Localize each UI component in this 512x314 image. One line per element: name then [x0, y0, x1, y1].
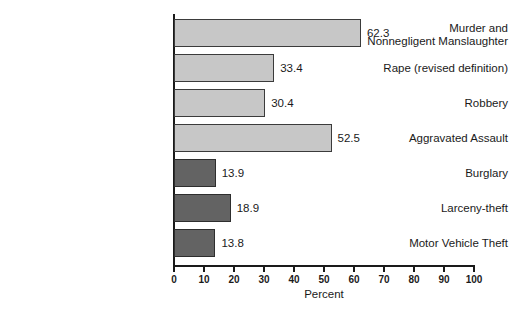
- bar-aggravated-assault[interactable]: [174, 124, 332, 152]
- plot-area: 0 10 20 30 40 50 60 70 80 90 100 62.3 33…: [173, 10, 477, 266]
- x-tick-label-0: 0: [159, 274, 189, 285]
- bar-value-burglary: 13.9: [222, 167, 244, 179]
- x-tick-30: [263, 265, 265, 272]
- bar-value-larceny-theft: 18.9: [237, 202, 259, 214]
- x-tick-20: [233, 265, 235, 272]
- x-tick-60: [353, 265, 355, 272]
- x-tick-70: [383, 265, 385, 272]
- bar-value-robbery: 30.4: [271, 97, 293, 109]
- bar-robbery[interactable]: [174, 89, 265, 117]
- x-tick-10: [203, 265, 205, 272]
- bar-burglary[interactable]: [174, 159, 216, 187]
- x-tick-label-80: 80: [399, 274, 429, 285]
- x-tick-label-40: 40: [279, 274, 309, 285]
- bar-value-rape: 33.4: [280, 62, 302, 74]
- x-tick-90: [443, 265, 445, 272]
- x-tick-label-90: 90: [429, 274, 459, 285]
- bar-chart: Murder and Nonnegligent Manslaughter Rap…: [0, 0, 512, 314]
- bar-value-motor-vehicle-theft: 13.8: [221, 237, 243, 249]
- bar-larceny-theft[interactable]: [174, 194, 231, 222]
- x-tick-label-70: 70: [369, 274, 399, 285]
- x-tick-100: [473, 265, 475, 272]
- x-tick-40: [293, 265, 295, 272]
- x-axis-title: Percent: [173, 288, 475, 300]
- bar-rape[interactable]: [174, 54, 274, 82]
- bar-motor-vehicle-theft[interactable]: [174, 229, 215, 257]
- x-tick-80: [413, 265, 415, 272]
- x-tick-label-100: 100: [459, 274, 489, 285]
- x-tick-label-20: 20: [219, 274, 249, 285]
- bar-value-aggravated-assault: 52.5: [338, 132, 360, 144]
- x-tick-50: [323, 265, 325, 272]
- x-tick-label-10: 10: [189, 274, 219, 285]
- x-tick-label-60: 60: [339, 274, 369, 285]
- bar-murder[interactable]: [174, 19, 361, 47]
- x-tick-label-30: 30: [249, 274, 279, 285]
- x-tick-label-50: 50: [309, 274, 339, 285]
- bar-value-murder: 62.3: [367, 27, 389, 39]
- x-tick-0: [173, 265, 175, 272]
